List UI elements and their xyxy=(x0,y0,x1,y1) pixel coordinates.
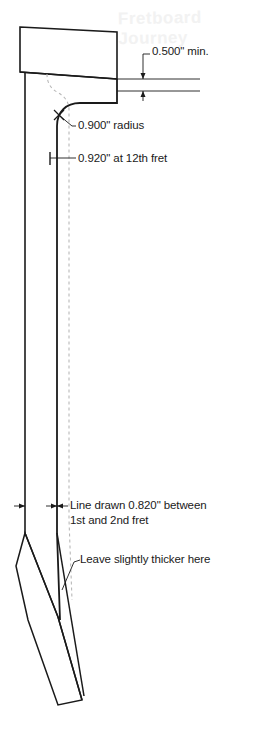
dimension-group-0500 xyxy=(117,54,200,101)
label-dimension-0920-12th-fret: 0.920" at 12th fret xyxy=(78,151,167,166)
label-note-leave-thicker: Leave slightly thicker here xyxy=(80,552,210,567)
heel-block-outline xyxy=(16,533,82,705)
label-dimension-0900-radius: 0.900" radius xyxy=(78,118,144,133)
centerline-dashed xyxy=(47,74,72,600)
label-dimension-0500-min: 0.500" min. xyxy=(152,44,209,59)
dimension-group-0820 xyxy=(14,504,68,509)
headstock-outline xyxy=(20,27,117,79)
leader-0920-12th-fret xyxy=(50,152,76,165)
label-dimension-0820-between-frets: Line drawn 0.820" between 1st and 2nd fr… xyxy=(70,498,250,528)
technical-drawing-canvas xyxy=(0,0,260,733)
label-0820-line1: Line drawn 0.820" between xyxy=(70,499,207,511)
leader-0900-radius xyxy=(60,116,76,126)
label-0820-line2: 1st and 2nd fret xyxy=(70,514,148,526)
